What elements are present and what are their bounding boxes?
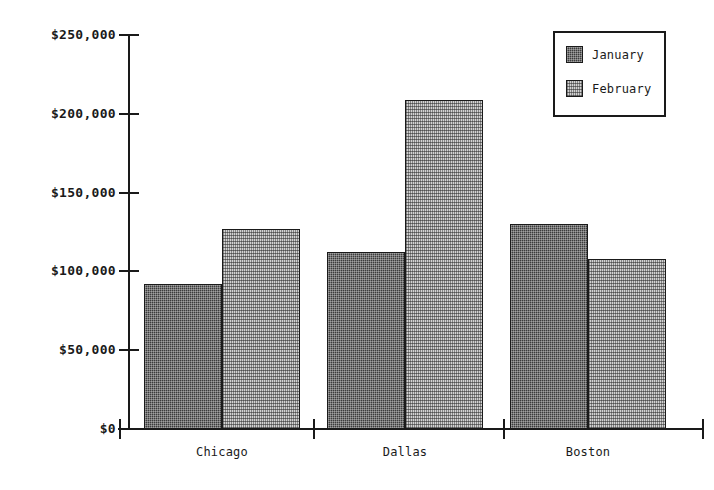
bar-boston-january [510,224,588,429]
legend-swatch-january-icon [566,46,583,63]
legend-label-january: January [592,48,644,62]
legend-label-february: February [592,82,651,96]
bar-chicago-february [222,229,300,429]
bar-chicago-january [144,284,222,429]
legend-item-february: February [566,80,651,97]
legend-swatch-february-icon [566,80,583,97]
bar-dallas-february [405,100,483,429]
x-axis-label-boston: Boston [510,445,666,459]
bar-dallas-january [327,252,405,429]
bar-boston-february [588,259,666,429]
x-axis-label-dallas: Dallas [327,445,483,459]
legend: January February [553,31,666,117]
legend-item-january: January [566,46,644,63]
bar-chart: $250,000$200,000$150,000$100,000$50,000$… [0,0,714,490]
x-axis-label-chicago: Chicago [144,445,300,459]
